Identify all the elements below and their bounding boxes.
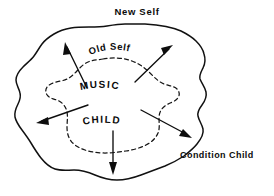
arrow-head-left — [36, 117, 49, 125]
label-condition-child: Condition Child — [180, 150, 254, 160]
arrow-up-right — [135, 45, 173, 82]
arrow-left — [36, 105, 88, 125]
diagram-root: New Self Old Self MUSIC CHILD Condition … — [0, 0, 274, 196]
arrow-head-up-right — [161, 45, 173, 55]
label-new-self: New Self — [114, 6, 159, 17]
arrow-head-down-right — [179, 129, 192, 138]
label-old-self: Old Self — [87, 41, 132, 57]
arrow-head-up-left — [63, 42, 71, 55]
arrow-down-right — [141, 110, 192, 138]
arrow-head-down — [109, 162, 117, 175]
label-music: MUSIC — [79, 79, 121, 92]
diagram-canvas: New Self Old Self MUSIC CHILD Condition … — [0, 0, 274, 196]
label-child: CHILD — [82, 114, 122, 127]
